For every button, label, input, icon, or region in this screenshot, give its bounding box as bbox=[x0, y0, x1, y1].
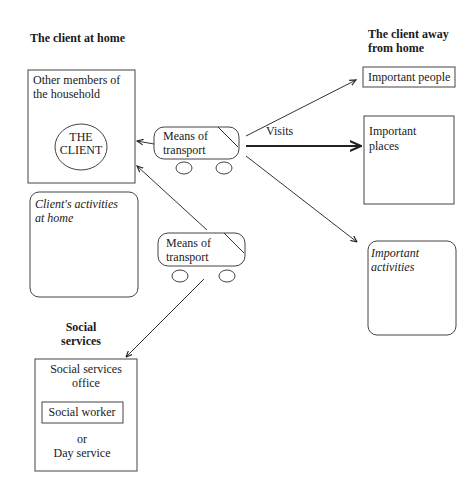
arrow-to-important-people bbox=[246, 80, 356, 136]
household-box: Other members of the household THE CLIEN… bbox=[28, 70, 135, 183]
household-label-line2: the household bbox=[33, 87, 100, 101]
activities-home-line1: Client's activities bbox=[35, 197, 118, 211]
or-label: or bbox=[77, 432, 87, 446]
heading-client-away-line2: from home bbox=[368, 41, 425, 55]
heading-client-at-home: The client at home bbox=[30, 31, 126, 45]
important-activities-box: Important activities bbox=[368, 241, 456, 335]
wheel-icon bbox=[176, 162, 192, 174]
social-office-line1: Social services bbox=[50, 362, 122, 376]
important-places-box: Important places bbox=[364, 116, 454, 204]
important-people-label: Important people bbox=[368, 70, 450, 84]
activities-home-line2: at home bbox=[35, 211, 74, 225]
transport-bottom-line1: Means of bbox=[166, 236, 211, 250]
heading-social-line2: services bbox=[61, 334, 101, 348]
activities-at-home-box: Client's activities at home bbox=[30, 192, 138, 297]
transport-top-line1: Means of bbox=[163, 129, 208, 143]
transport-vehicle-bottom: Means of transport bbox=[158, 233, 245, 282]
arrow-transport-to-household bbox=[137, 141, 154, 144]
heading-client-away-line1: The client away bbox=[368, 27, 449, 41]
important-activities-line1: Important bbox=[370, 246, 420, 260]
wheel-icon bbox=[219, 270, 235, 282]
wheel-icon bbox=[172, 270, 188, 282]
client-network-diagram: The client at home The client away from … bbox=[0, 0, 469, 497]
arrow-to-important-activities bbox=[246, 156, 357, 242]
visits-label: Visits bbox=[266, 124, 294, 138]
day-service-label: Day service bbox=[54, 446, 111, 460]
household-label-line1: Other members of bbox=[33, 73, 120, 87]
important-places-line2: places bbox=[369, 139, 399, 153]
social-worker-label: Social worker bbox=[49, 405, 116, 419]
social-services-box: Social services office Social worker or … bbox=[35, 359, 137, 471]
client-label-line1: THE bbox=[69, 130, 92, 144]
wheel-icon bbox=[216, 162, 232, 174]
social-worker-box: Social worker bbox=[42, 402, 123, 423]
important-activities-line2: activities bbox=[371, 260, 415, 274]
important-people-box: Important people bbox=[363, 67, 455, 87]
transport-vehicle-top: Means of transport bbox=[154, 127, 239, 174]
social-office-line2: office bbox=[72, 376, 100, 390]
transport-top-line2: transport bbox=[163, 143, 206, 157]
client-label-line2: CLIENT bbox=[60, 143, 103, 157]
client-circle: THE CLIENT bbox=[55, 124, 107, 170]
important-places-line1: Important bbox=[369, 124, 417, 138]
transport-bottom-line2: transport bbox=[166, 250, 209, 264]
heading-social-line1: Social bbox=[66, 320, 97, 334]
arrow-bottom-transport-to-household bbox=[137, 166, 207, 230]
